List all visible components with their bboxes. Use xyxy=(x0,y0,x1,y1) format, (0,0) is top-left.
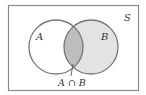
venn-diagram: S A B A ∩ B xyxy=(0,0,146,95)
set-a-label: A xyxy=(35,31,43,42)
set-b-label: B xyxy=(100,31,108,42)
universe-label: S xyxy=(124,12,131,23)
intersection-label: A ∩ B xyxy=(57,77,86,88)
